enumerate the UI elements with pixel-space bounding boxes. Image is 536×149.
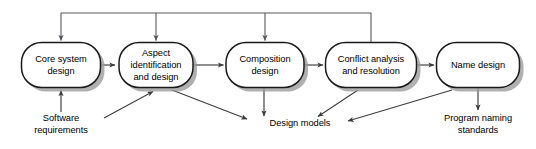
edge-requirements-to-aspect [104, 92, 153, 119]
node-aspect-identification-and-design[interactable]: Aspect identification and design [119, 43, 197, 92]
label-design-models: Design models [270, 118, 331, 128]
label-software-requirements: Software requirements [34, 113, 88, 135]
node-composition-design-label-line-2: design [251, 66, 278, 76]
edge-conflict-to-design-models [318, 90, 358, 117]
label-program-naming-standards-line-2: standards [458, 125, 499, 135]
label-software-requirements-line-1: Software [43, 113, 79, 123]
node-core-system-design[interactable]: Core system design [22, 43, 105, 92]
edge-aspect-to-design-models [172, 90, 247, 119]
node-composition-design[interactable]: Composition design [226, 43, 308, 92]
node-conflict-analysis-and-resolution-label-line-2: and resolution [342, 66, 400, 76]
node-core-system-design-label-line-2: design [47, 66, 74, 76]
label-program-naming-standards-line-1: Program naming [444, 113, 512, 123]
node-name-design[interactable]: Name design [437, 43, 524, 92]
feedback-bus-trunk [61, 13, 371, 43]
label-design-models-line-1: Design models [270, 118, 331, 128]
diagram-canvas: Core system design Aspect identification… [0, 0, 536, 149]
feedback-bus [61, 13, 371, 43]
aspect-design-process-diagram: Core system design Aspect identification… [0, 0, 536, 149]
node-aspect-identification-and-design-label-line-3: and design [134, 72, 179, 82]
label-program-naming-standards: Program naming standards [444, 113, 512, 135]
node-conflict-analysis-and-resolution-label-line-1: Conflict analysis [338, 54, 405, 64]
node-core-system-design-label-line-1: Core system [35, 54, 87, 64]
output-edges [172, 88, 478, 121]
edge-name-to-design-models [348, 90, 452, 121]
label-software-requirements-line-2: requirements [34, 125, 88, 135]
node-conflict-analysis-and-resolution[interactable]: Conflict analysis and resolution [326, 43, 421, 92]
node-composition-design-label-line-1: Composition [239, 54, 290, 64]
node-name-design-label-line-1: Name design [451, 60, 505, 70]
node-aspect-identification-and-design-label-line-2: identification [131, 60, 182, 70]
node-aspect-identification-and-design-label-line-1: Aspect [142, 48, 171, 58]
